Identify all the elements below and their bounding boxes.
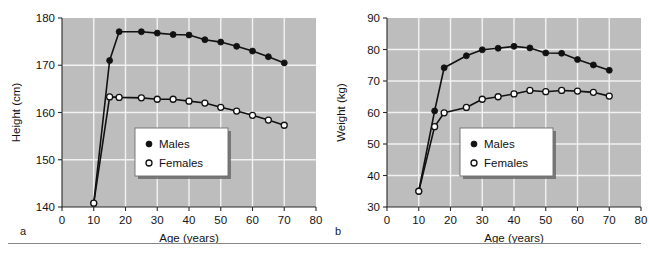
data-point-females bbox=[138, 95, 144, 101]
data-point-males bbox=[138, 29, 144, 35]
data-point-males bbox=[154, 30, 160, 36]
y-tick-label: 30 bbox=[367, 201, 380, 213]
data-point-females bbox=[116, 94, 122, 100]
y-tick-label: 170 bbox=[36, 59, 55, 71]
y-axis-title: Height (cm) bbox=[10, 83, 22, 143]
x-tick-label: 60 bbox=[246, 214, 259, 226]
data-point-males bbox=[281, 60, 287, 66]
data-point-females bbox=[432, 124, 438, 130]
panel-b-weight: 3040506070809001020304050607080Age (year… bbox=[325, 0, 649, 245]
data-point-females bbox=[416, 188, 422, 194]
data-point-males bbox=[234, 43, 240, 49]
y-tick-label: 150 bbox=[36, 154, 55, 166]
x-tick-label: 30 bbox=[476, 214, 489, 226]
y-axis-title: Weight (kg) bbox=[335, 83, 347, 142]
legend-label-males: Males bbox=[159, 138, 190, 150]
weight-chart: 3040506070809001020304050607080Age (year… bbox=[325, 0, 649, 245]
data-point-males bbox=[170, 32, 176, 38]
data-point-males bbox=[107, 58, 113, 64]
x-tick-label: 70 bbox=[603, 214, 616, 226]
x-tick-label: 40 bbox=[183, 214, 196, 226]
data-point-males bbox=[202, 37, 208, 43]
data-point-females bbox=[527, 87, 533, 93]
height-chart: 14015016017018001020304050607080Age (yea… bbox=[0, 0, 325, 245]
legend-label-females: Females bbox=[484, 157, 528, 169]
y-tick-label: 140 bbox=[36, 201, 55, 213]
data-point-females bbox=[543, 89, 549, 95]
y-tick-label: 180 bbox=[36, 12, 55, 24]
legend-marker-males bbox=[146, 141, 152, 147]
data-point-males bbox=[559, 50, 565, 56]
data-point-males bbox=[590, 62, 596, 68]
data-point-males bbox=[441, 65, 447, 71]
y-tick-label: 160 bbox=[36, 107, 55, 119]
y-tick-label: 90 bbox=[367, 12, 380, 24]
data-point-females bbox=[511, 91, 517, 97]
y-tick-label: 40 bbox=[367, 170, 380, 182]
data-point-females bbox=[170, 96, 176, 102]
figure-container: 14015016017018001020304050607080Age (yea… bbox=[0, 0, 649, 255]
data-point-males bbox=[479, 47, 485, 53]
data-point-males bbox=[543, 50, 549, 56]
x-tick-label: 50 bbox=[539, 214, 552, 226]
data-point-males bbox=[186, 32, 192, 38]
data-point-females bbox=[590, 89, 596, 95]
x-tick-label: 40 bbox=[508, 214, 521, 226]
data-point-females bbox=[218, 104, 224, 110]
data-point-females bbox=[202, 100, 208, 106]
data-point-males bbox=[116, 29, 122, 35]
data-point-females bbox=[107, 94, 113, 100]
legend-marker-females bbox=[146, 160, 152, 166]
y-tick-label: 80 bbox=[367, 44, 380, 56]
x-tick-label: 70 bbox=[278, 214, 291, 226]
x-tick-label: 50 bbox=[214, 214, 227, 226]
x-tick-label: 10 bbox=[87, 214, 100, 226]
panel-a-height: 14015016017018001020304050607080Age (yea… bbox=[0, 0, 325, 245]
x-tick-label: 60 bbox=[571, 214, 584, 226]
x-tick-label: 0 bbox=[384, 214, 390, 226]
y-tick-label: 50 bbox=[367, 138, 380, 150]
legend-marker-males bbox=[471, 141, 477, 147]
x-tick-label: 80 bbox=[635, 214, 648, 226]
y-tick-label: 70 bbox=[367, 75, 380, 87]
data-point-males bbox=[218, 39, 224, 45]
x-tick-label: 20 bbox=[119, 214, 132, 226]
data-point-females bbox=[234, 108, 240, 114]
data-point-females bbox=[575, 88, 581, 94]
data-point-females bbox=[479, 96, 485, 102]
x-tick-label: 30 bbox=[151, 214, 164, 226]
data-point-males bbox=[575, 57, 581, 63]
data-point-males bbox=[463, 53, 469, 59]
data-point-females bbox=[559, 87, 565, 93]
x-tick-label: 0 bbox=[59, 214, 65, 226]
legend-label-females: Females bbox=[159, 157, 203, 169]
x-tick-label: 80 bbox=[310, 214, 323, 226]
data-point-females bbox=[91, 200, 97, 206]
y-tick-label: 60 bbox=[367, 107, 380, 119]
data-point-males bbox=[495, 45, 501, 51]
data-point-females bbox=[441, 110, 447, 116]
data-point-females bbox=[186, 98, 192, 104]
x-tick-label: 10 bbox=[412, 214, 425, 226]
data-point-females bbox=[495, 94, 501, 100]
panel-b-letter: b bbox=[335, 225, 341, 237]
data-point-females bbox=[281, 122, 287, 128]
panel-a-letter: a bbox=[20, 225, 26, 237]
data-point-females bbox=[154, 96, 160, 102]
data-point-females bbox=[265, 117, 271, 123]
x-tick-label: 20 bbox=[444, 214, 457, 226]
data-point-males bbox=[432, 108, 438, 114]
data-point-females bbox=[250, 112, 256, 118]
data-point-males bbox=[511, 43, 517, 49]
legend-marker-females bbox=[471, 160, 477, 166]
data-point-males bbox=[527, 45, 533, 51]
data-point-males bbox=[265, 54, 271, 60]
data-point-males bbox=[606, 67, 612, 73]
data-point-males bbox=[250, 48, 256, 54]
data-point-females bbox=[606, 93, 612, 99]
figure-bottom-rule bbox=[8, 243, 641, 244]
data-point-females bbox=[463, 104, 469, 110]
legend-label-males: Males bbox=[484, 138, 515, 150]
